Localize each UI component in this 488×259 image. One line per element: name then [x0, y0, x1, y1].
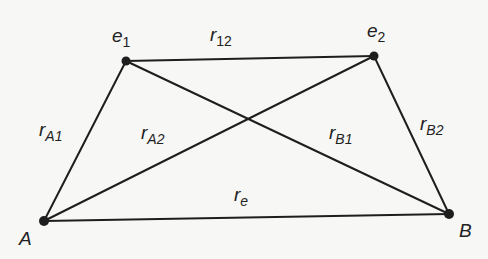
label-rB2: rB2 [420, 114, 443, 137]
label-e1: e1 [112, 26, 130, 49]
edge-re [44, 214, 449, 221]
node-e1 [122, 57, 131, 66]
label-rA1: rA1 [39, 120, 62, 143]
label-e2: e2 [367, 21, 385, 44]
node-e2 [370, 52, 379, 61]
edge-rB1 [126, 61, 449, 214]
node-B [444, 209, 454, 219]
label-B: B [459, 221, 472, 240]
edge-r12 [126, 56, 374, 61]
label-r12: r12 [210, 25, 232, 48]
edge-rA2 [44, 56, 374, 221]
label-re: re [234, 185, 248, 208]
diagram-canvas: e1 e2 A B r12 rA1 rA2 rB1 rB2 re [0, 0, 488, 259]
label-rB1: rB1 [329, 123, 352, 146]
node-A [39, 216, 49, 226]
graph-svg [0, 0, 488, 259]
label-rA2: rA2 [141, 123, 164, 146]
label-A: A [19, 229, 32, 248]
